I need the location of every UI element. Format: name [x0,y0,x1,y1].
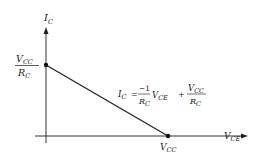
load-line-equation: IC = −1 RC VCE + VCC RC [117,83,206,108]
x-intercept-label: VCC [160,142,176,154]
y-intercept-point [44,63,48,67]
x-axis-arrow-icon [241,134,248,139]
load-line-diagram: IC VCC RC VCE VCC IC = −1 RC VCE + VCC R… [0,0,256,162]
svg-text:RC: RC [17,67,30,80]
svg-text:VCE: VCE [152,90,168,102]
x-intercept-point [166,134,170,138]
svg-text:−1: −1 [139,84,150,93]
y-axis-label: IC [43,12,53,26]
x-axis-label: VCE [224,131,240,143]
x-axis [35,134,248,139]
svg-text:+: + [178,90,185,99]
svg-text:=: = [131,90,138,99]
svg-text:VCC: VCC [188,83,204,95]
svg-text:IC: IC [117,89,127,101]
svg-text:VCC: VCC [16,53,33,66]
y-intercept-label: VCC RC [15,53,39,80]
svg-text:RC: RC [138,97,150,108]
svg-text:RC: RC [189,97,201,108]
y-axis-arrow-icon [44,27,49,34]
y-axis [44,27,49,143]
